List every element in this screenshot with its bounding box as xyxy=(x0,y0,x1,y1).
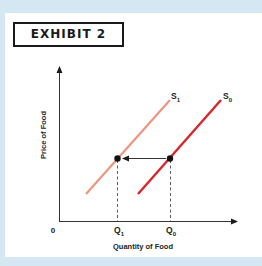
origin-label: 0 xyxy=(51,226,56,235)
supply-curve-s0 xyxy=(138,100,221,194)
y-axis-arrow-icon xyxy=(57,66,63,73)
y-axis xyxy=(57,66,63,222)
x-axis-arrow-icon xyxy=(231,219,238,225)
supply-shift-chart: S1 S0 0 Q1 Q0 Quantity of Food Price of … xyxy=(0,0,262,266)
x-axis xyxy=(59,219,238,225)
q1-tick-label: Q1 xyxy=(114,225,125,237)
q0-tick-label: Q0 xyxy=(166,225,177,237)
supply-curve-s1 xyxy=(86,100,170,194)
point-s1-q1 xyxy=(114,155,120,161)
s0-label: S0 xyxy=(223,91,233,103)
y-axis-title: Price of Food xyxy=(39,111,48,159)
point-s0-q0 xyxy=(167,155,173,161)
s1-label: S1 xyxy=(171,91,181,103)
x-axis-title: Quantity of Food xyxy=(113,242,173,251)
